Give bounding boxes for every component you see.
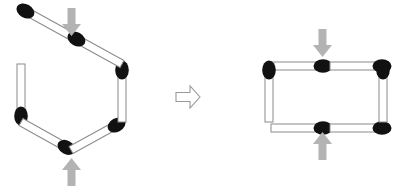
match-stick bbox=[18, 116, 78, 158]
match-stick bbox=[14, 64, 28, 126]
match-stick bbox=[271, 59, 333, 73]
match-stick bbox=[115, 61, 129, 123]
match-stick bbox=[271, 121, 333, 135]
match-stick bbox=[14, 0, 74, 42]
transformation-arrow-icon bbox=[176, 86, 200, 108]
figure-canvas bbox=[0, 0, 413, 193]
match-stick bbox=[262, 61, 276, 123]
rectangle-matchsticks bbox=[262, 59, 391, 135]
top-load-arrow-icon bbox=[313, 29, 332, 57]
hexagon-figure bbox=[14, 0, 129, 186]
bottom-load-arrow-icon bbox=[313, 132, 332, 160]
matchstick-figure bbox=[0, 0, 413, 193]
match-stick bbox=[330, 121, 392, 135]
match-stick bbox=[376, 61, 390, 123]
faint-caption bbox=[60, 180, 350, 192]
match-stick bbox=[65, 28, 125, 70]
rectangle-figure bbox=[262, 29, 391, 160]
